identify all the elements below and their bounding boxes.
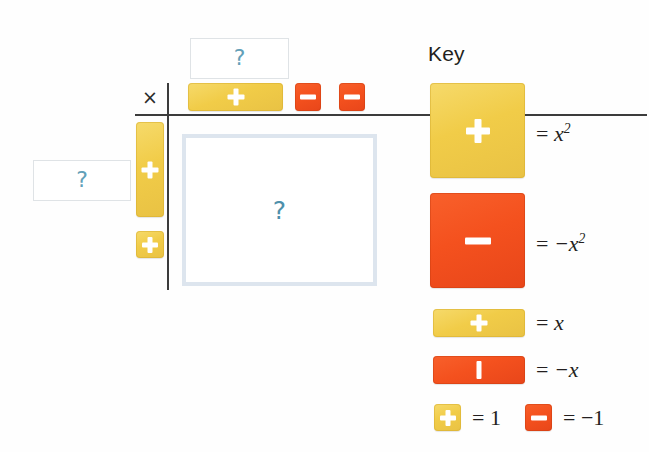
key-title: Key xyxy=(428,43,465,64)
minus-icon xyxy=(295,83,321,111)
question-mark-glyph: ? xyxy=(76,169,88,191)
key-label-one-negative: = −1 xyxy=(563,407,604,429)
equals-sign: = xyxy=(563,405,575,430)
plus-icon xyxy=(188,83,283,111)
minus-icon xyxy=(339,83,365,111)
key-tile-one-positive[interactable] xyxy=(434,404,461,431)
key-tile-one-negative[interactable] xyxy=(525,404,552,431)
key-tile-x-negative[interactable] xyxy=(433,356,525,384)
key-tile-x-squared-positive[interactable] xyxy=(430,83,525,178)
equals-sign: = xyxy=(536,357,548,382)
key-label-x-squared-positive: = x2 xyxy=(536,122,571,145)
key-value-x-positive: x xyxy=(554,310,564,335)
key-value-x-squared-positive: x2 xyxy=(554,121,571,146)
key-label-one-positive: = 1 xyxy=(472,407,501,429)
top-factor-question-box[interactable]: ? xyxy=(190,38,289,79)
key-label-x-negative: = −x xyxy=(536,359,579,381)
plus-icon xyxy=(434,404,461,431)
key-label-x-squared-negative: = −x2 xyxy=(536,232,585,255)
key-label-x-positive: = x xyxy=(536,312,564,334)
product-answer-region[interactable]: ? xyxy=(182,134,377,286)
left-factor-x-tile[interactable] xyxy=(136,122,164,217)
plus-icon xyxy=(136,231,164,258)
mat-horizontal-rule xyxy=(135,114,647,116)
worksheet-canvas: ? ? × ? Key = x2 = −x2 xyxy=(0,0,649,452)
question-mark-glyph: ? xyxy=(273,198,286,223)
plus-icon xyxy=(136,122,164,217)
key-tile-x-squared-negative[interactable] xyxy=(430,193,525,288)
minus-icon xyxy=(430,193,525,288)
left-factor-unit-tile[interactable] xyxy=(136,231,164,258)
top-factor-x-tile[interactable] xyxy=(188,83,283,111)
key-value-x-negative: −x xyxy=(554,357,579,382)
plus-icon xyxy=(430,83,525,178)
top-factor-unit-tile-1[interactable] xyxy=(295,83,321,111)
equals-sign: = xyxy=(536,121,548,146)
minus-icon xyxy=(525,404,552,431)
equals-sign: = xyxy=(536,231,548,256)
top-factor-unit-tile-2[interactable] xyxy=(339,83,365,111)
key-tile-x-positive[interactable] xyxy=(433,309,525,337)
vertical-bar-icon xyxy=(433,356,525,384)
equals-sign: = xyxy=(536,310,548,335)
key-value-x-squared-negative: −x2 xyxy=(554,231,585,256)
left-factor-question-box[interactable]: ? xyxy=(33,160,131,201)
multiplication-symbol: × xyxy=(142,88,158,107)
key-value-one-positive: 1 xyxy=(490,405,501,430)
plus-icon xyxy=(433,309,525,337)
key-value-one-negative: −1 xyxy=(581,405,604,430)
question-mark-glyph: ? xyxy=(234,47,246,69)
equals-sign: = xyxy=(472,405,484,430)
